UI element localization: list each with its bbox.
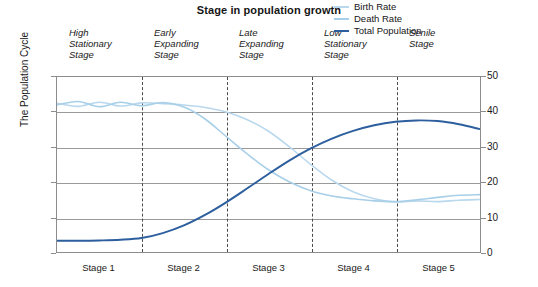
legend-swatch-icon [334,30,349,32]
series-line-birth-rate [57,102,480,202]
stage-footer-3: Stage 3 [229,262,309,273]
y-tick-mark-right-10 [481,218,486,219]
stage-heading-3: Late Expanding Stage [239,27,284,61]
y-tick-mark-right-0 [481,253,486,254]
legend-label: Birth Rate [354,1,396,12]
y-tick-mark-left-0 [51,253,56,254]
stage-footer-5: Stage 5 [399,262,479,273]
legend-item-total-population[interactable]: Total Population [334,25,422,36]
legend-label: Death Rate [354,13,402,24]
plot-area [56,76,481,253]
y-tick-label-right-20: 20 [487,177,517,187]
legend-item-death-rate[interactable]: Death Rate [334,13,422,24]
stage-heading-2: Early Expanding Stage [154,27,199,61]
stage-heading-1: High Stationary Stage [69,27,112,61]
y-tick-label-right-40: 40 [487,106,517,116]
demographic-transition-chart: Stage in population growth High Stationa… [0,0,538,287]
y-tick-label-right-30: 30 [487,142,517,152]
stage-footer-1: Stage 1 [59,262,139,273]
series-line-death-rate [57,101,480,201]
y-tick-mark-right-30 [481,147,486,148]
y-tick-label-right-50: 50 [487,71,517,81]
y-tick-label-right-0: 0 [487,248,517,258]
y-tick-mark-right-20 [481,182,486,183]
y-axis-title: The Population Cycle [19,0,30,170]
legend-swatch-icon [334,18,349,20]
y-tick-mark-right-50 [481,76,486,77]
stage-footer-4: Stage 4 [314,262,394,273]
stage-footer-2: Stage 2 [144,262,224,273]
chart-title: Stage in population growth [0,4,538,16]
series-curves [57,77,480,252]
y-tick-label-right-10: 10 [487,213,517,223]
series-line-total-population [57,120,480,240]
legend-swatch-icon [334,6,349,8]
y-tick-mark-right-40 [481,111,486,112]
legend-label: Total Population [354,25,422,36]
chart-legend: Birth RateDeath RateTotal Population [334,1,422,36]
legend-item-birth-rate[interactable]: Birth Rate [334,1,422,12]
